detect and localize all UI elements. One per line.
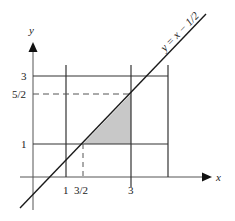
y-tick-5-2: 5/2: [12, 88, 26, 100]
x-tick-3-2: 3/2: [74, 184, 88, 196]
x-axis-arrow-icon: [202, 173, 212, 182]
y-tick-1: 1: [21, 138, 27, 150]
x-tick-1: 1: [63, 184, 69, 196]
diagram-canvas: y = x − 1/2 x y 3 5/2 1 1 3/2 3: [0, 0, 235, 221]
line-label: y = x − 1/2: [157, 9, 201, 54]
y-tick-3: 3: [21, 70, 27, 82]
x-axis-label: x: [215, 171, 221, 183]
shaded-triangle: [83, 94, 131, 144]
x-tick-3: 3: [128, 184, 134, 196]
y-axis-arrow-icon: [29, 42, 38, 52]
y-axis-label: y: [28, 24, 34, 36]
line-y-equals-x-minus-half: [20, 14, 206, 208]
